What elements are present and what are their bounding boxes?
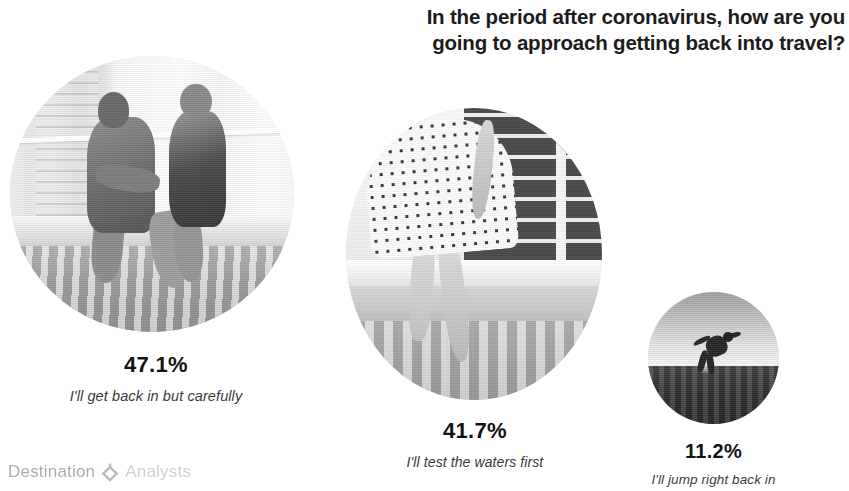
- stat-group-test-the-waters: 41.7% I'll test the waters first: [346, 108, 604, 470]
- man-head: [98, 92, 129, 128]
- logo-word-destination: Destination: [8, 462, 95, 482]
- stat-group-jump-right-back-in: 11.2% I'll jump right back in: [648, 292, 849, 487]
- page-title: In the period after coronavirus, how are…: [325, 4, 845, 56]
- infographic-canvas: In the period after coronavirus, how are…: [0, 0, 849, 491]
- woman-body: [169, 111, 226, 227]
- woman-head: [180, 84, 211, 120]
- stat-caption: I'll jump right back in: [613, 472, 814, 487]
- destination-analysts-logo: Destination Analysts: [8, 461, 191, 483]
- pool-water: [10, 246, 294, 332]
- logo-word-analysts: Analysts: [125, 462, 191, 482]
- pool-edge-scene: [10, 56, 294, 332]
- person-jumping-into-water-photo: [648, 292, 779, 424]
- photo-grain-overlay: [346, 108, 602, 400]
- photo-grain-overlay: [648, 292, 779, 424]
- stat-group-get-back-in-carefully: 47.1% I'll get back in but carefully: [8, 56, 304, 404]
- woman-dipping-foot-in-pool-photo: [346, 108, 602, 400]
- diamond-icon: [100, 461, 120, 483]
- stat-caption: I'll test the waters first: [346, 454, 604, 470]
- stat-percent: 11.2%: [613, 440, 814, 463]
- stat-percent: 47.1%: [8, 352, 304, 378]
- title-line-2: going to approach getting back into trav…: [325, 30, 845, 56]
- jumping-into-water-scene: [648, 292, 779, 424]
- couple-sitting-on-pool-edge-photo: [10, 56, 294, 332]
- stat-caption: I'll get back in but carefully: [8, 388, 304, 404]
- stat-percent: 41.7%: [346, 418, 604, 444]
- diamond-icon-svg: [100, 461, 120, 483]
- poolside-dip-scene: [346, 108, 602, 400]
- title-line-1: In the period after coronavirus, how are…: [325, 4, 845, 30]
